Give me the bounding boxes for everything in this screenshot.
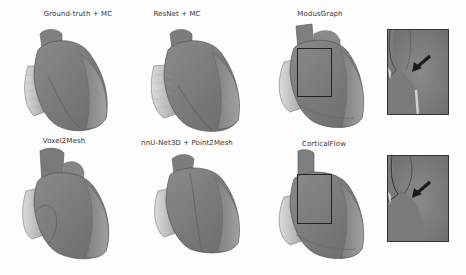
figure: Ground-truth + MC ResNet + MC	[0, 0, 466, 275]
panel-voxel2mesh: Voxel2Mesh	[0, 135, 140, 275]
roi-box	[297, 174, 332, 224]
panel-corticalflow: CorticalFlow	[260, 135, 466, 275]
panel-label: ModusGraph	[297, 10, 342, 18]
panel-ground-truth: Ground-truth + MC	[0, 0, 150, 135]
panel-resnet: ResNet + MC	[140, 0, 270, 135]
panel-label: Ground-truth + MC	[44, 10, 112, 18]
panel-label: ResNet + MC	[153, 10, 200, 18]
panel-nnunet-point2mesh: nnU-Net3D + Point2Mesh	[140, 135, 270, 275]
heart-mesh-render	[18, 147, 118, 262]
inset-render	[388, 156, 449, 242]
zoom-inset-modusgraph	[387, 29, 449, 115]
inset-render	[388, 30, 449, 115]
zoom-inset-corticalflow	[387, 155, 449, 242]
panel-label: Voxel2Mesh	[43, 137, 85, 145]
heart-mesh-render	[18, 26, 118, 136]
heart-mesh-render	[148, 26, 248, 136]
panel-label: CorticalFlow	[302, 140, 346, 148]
roi-box	[297, 48, 332, 97]
panel-modusgraph: ModusGraph	[260, 0, 466, 135]
heart-mesh-render	[150, 153, 250, 258]
panel-label: nnU-Net3D + Point2Mesh	[141, 139, 232, 147]
